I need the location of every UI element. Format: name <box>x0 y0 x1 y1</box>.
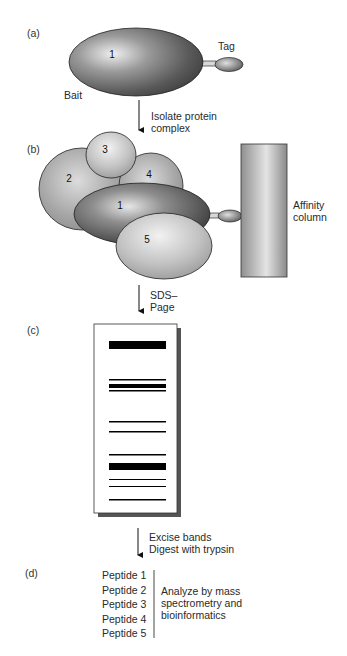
affinity-label-line2: column <box>293 211 327 223</box>
peptide-5: Peptide 5 <box>102 626 146 641</box>
step-sds-line2: Page <box>150 301 175 313</box>
affinity-label-line1: Affinity <box>293 199 324 211</box>
step-excise-line1: Excise bands <box>149 531 211 543</box>
gel-band-thin <box>109 499 166 501</box>
analysis-line2: spectrometry and <box>161 597 242 609</box>
peptide-1: Peptide 1 <box>102 568 146 583</box>
protein-5 <box>116 213 212 279</box>
sds-page-gel <box>94 324 181 517</box>
tag-label: Tag <box>218 40 235 52</box>
affinity-column <box>241 144 287 277</box>
gel-band-thin <box>109 379 166 381</box>
protein-3 <box>86 132 136 178</box>
gel-band-thin <box>109 390 166 392</box>
svg-text:4: 4 <box>146 169 152 180</box>
panel-label-a: (a) <box>27 27 40 39</box>
panel-label-b: (b) <box>27 143 40 155</box>
workflow-diagram: 1 2 3 4 1 5 <box>0 0 347 656</box>
gel-band-thin <box>109 431 166 433</box>
gel-band-thick <box>109 463 166 470</box>
analysis-line1: Analyze by mass <box>161 585 240 597</box>
gel-band-thick <box>109 341 166 349</box>
panel-label-c: (c) <box>27 324 39 336</box>
bait-number-a: 1 <box>109 49 115 60</box>
bait-label: Bait <box>64 89 82 101</box>
gel-band-thin <box>109 421 166 423</box>
gel-band-thin <box>109 479 166 480</box>
svg-text:2: 2 <box>66 173 72 184</box>
tag-icon <box>215 58 243 72</box>
analysis-line3: bioinformatics <box>161 609 226 621</box>
peptide-2: Peptide 2 <box>102 583 146 598</box>
step-sds-line1: SDS– <box>150 289 177 301</box>
step-excise-line2: Digest with trypsin <box>149 543 234 555</box>
bait-protein-a: 1 <box>69 28 243 96</box>
svg-text:5: 5 <box>144 234 150 245</box>
panel-label-d: (d) <box>25 567 38 579</box>
step-isolate-line1: Isolate protein <box>151 110 217 122</box>
gel-band-thin <box>109 486 166 487</box>
svg-text:1: 1 <box>117 200 123 211</box>
tag-icon <box>218 210 242 222</box>
peptide-3: Peptide 3 <box>102 597 146 612</box>
gel-band-thin <box>109 454 166 456</box>
peptide-4: Peptide 4 <box>102 612 146 627</box>
protein-complex-b: 2 3 4 1 5 <box>39 132 287 279</box>
step-isolate-line2: complex <box>151 122 190 134</box>
svg-text:3: 3 <box>102 144 108 155</box>
gel-band-thick <box>109 384 166 388</box>
